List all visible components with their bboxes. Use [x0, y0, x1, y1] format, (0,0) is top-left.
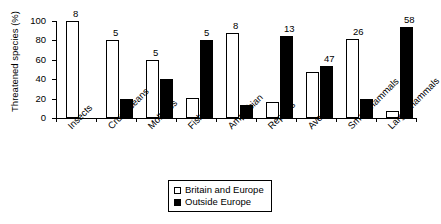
bar-britain-and-europe — [346, 39, 359, 118]
group-sample-size-label: 8 — [233, 21, 238, 31]
y-tick-label-100: 100 — [30, 16, 46, 26]
group-sample-size-label: 5 — [153, 48, 158, 58]
x-tick-5 — [256, 118, 257, 122]
bar-group: 8 — [64, 21, 96, 118]
legend-label-outside-europe: Outside Europe — [185, 196, 251, 208]
x-tick-7 — [336, 118, 337, 122]
group-sample-size-label: 13 — [284, 24, 295, 34]
bar-group: 5 — [184, 21, 216, 118]
legend: Britain and Europe Outside Europe — [168, 180, 272, 212]
legend-swatch-icon-light — [174, 187, 181, 194]
bar-britain-and-europe — [226, 33, 239, 118]
bar-britain-and-europe — [146, 60, 159, 118]
bar-outside-europe — [200, 40, 213, 118]
y-tick-40: 40 — [52, 79, 56, 80]
y-tick-label-80: 80 — [35, 36, 46, 46]
y-tick-label-20: 20 — [35, 94, 46, 104]
x-tick-8 — [376, 118, 377, 122]
legend-swatch-icon-dark — [174, 199, 181, 206]
y-tick-label-0: 0 — [41, 113, 46, 123]
legend-item-britain-and-europe: Britain and Europe — [174, 184, 264, 196]
y-tick-label-40: 40 — [35, 74, 46, 84]
bar-britain-and-europe — [106, 40, 119, 118]
x-tick-2 — [136, 118, 137, 122]
x-tick-3 — [176, 118, 177, 122]
y-tick-60: 60 — [52, 60, 56, 61]
y-tick-label-60: 60 — [35, 55, 46, 65]
x-tick-4 — [216, 118, 217, 122]
x-tick-1 — [96, 118, 97, 122]
legend-item-outside-europe: Outside Europe — [174, 196, 264, 208]
y-axis-line — [56, 21, 57, 119]
group-sample-size-label: 8 — [73, 9, 78, 19]
group-sample-size-label: 58 — [404, 15, 415, 25]
bar-britain-and-europe — [66, 21, 79, 118]
x-tick-6 — [296, 118, 297, 122]
y-tick-20: 20 — [52, 99, 56, 100]
x-tick-0 — [56, 118, 57, 122]
group-sample-size-label: 5 — [113, 28, 118, 38]
x-tick-9 — [416, 118, 417, 122]
group-sample-size-label: 47 — [324, 54, 335, 64]
bar-group: 47 — [304, 21, 336, 118]
group-sample-size-label: 5 — [204, 28, 209, 38]
y-axis-title: Threatened species (%) — [9, 2, 20, 122]
y-tick-100: 100 — [52, 21, 56, 22]
plot-area: 020406080100 8555813472658 — [56, 21, 416, 118]
group-sample-size-label: 26 — [353, 27, 364, 37]
y-tick-80: 80 — [52, 40, 56, 41]
legend-label-britain-and-europe: Britain and Europe — [185, 184, 264, 196]
